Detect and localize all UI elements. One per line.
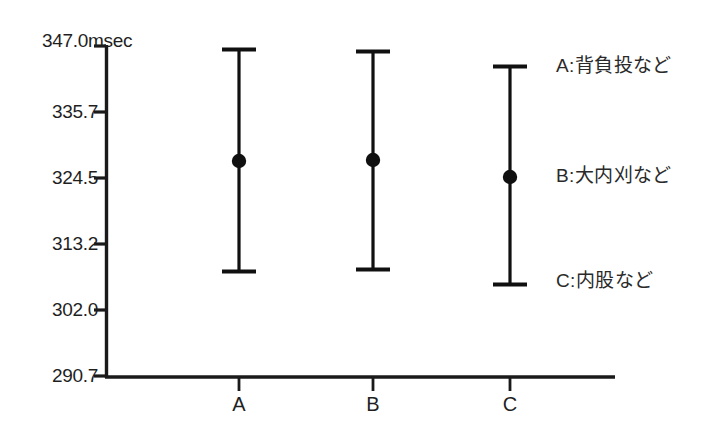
y-axis-unit-label: 347.0msec [42,30,132,52]
y-axis-label-290: 290.7 [52,365,98,387]
legend-item-c: C:内股など [556,265,653,292]
y-axis-ticks [94,46,106,376]
error-bar-group-c [493,66,527,285]
y-axis-label-324: 324.5 [52,167,98,189]
y-axis-label-313: 313.2 [52,233,98,255]
error-bar-group-a [222,49,256,272]
mean-marker-c [503,170,517,184]
x-axis-ticks [239,377,510,391]
legend-item-a: A:背負投など [556,50,672,77]
legend-item-b: B:大内刈など [556,160,672,187]
mean-marker-b [366,153,380,167]
y-axis-label-335: 335.7 [52,101,98,123]
x-axis-label-c: C [490,393,530,416]
x-axis-label-a: A [219,393,259,416]
error-bar-chart: 347.0msec 335.7 324.5 313.2 302.0 290.7 … [0,0,714,440]
x-axis-label-b: B [353,393,393,416]
error-bar-group-b [356,51,390,270]
mean-marker-a [232,154,246,168]
y-axis-label-302: 302.0 [52,299,98,321]
